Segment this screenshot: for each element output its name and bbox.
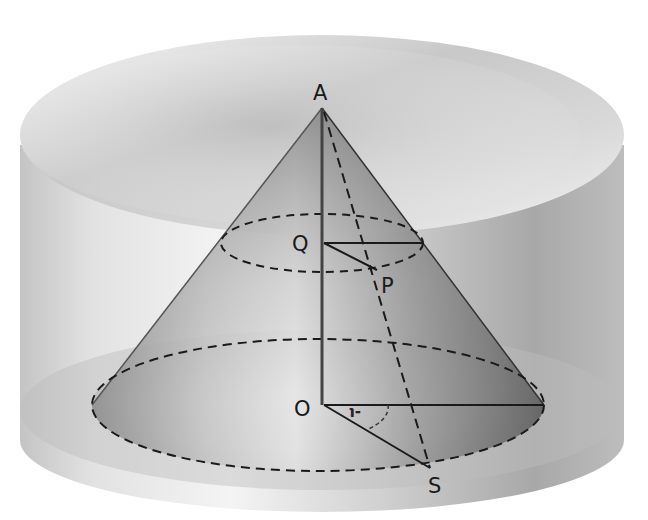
label-angle: -ι xyxy=(349,404,361,422)
label-S: S xyxy=(428,474,441,498)
cone-in-cylinder-diagram: A Q P O S -ι xyxy=(0,0,648,520)
label-O: O xyxy=(294,397,311,421)
label-A: A xyxy=(313,81,328,105)
label-Q: Q xyxy=(292,232,309,256)
label-P: P xyxy=(381,274,394,298)
